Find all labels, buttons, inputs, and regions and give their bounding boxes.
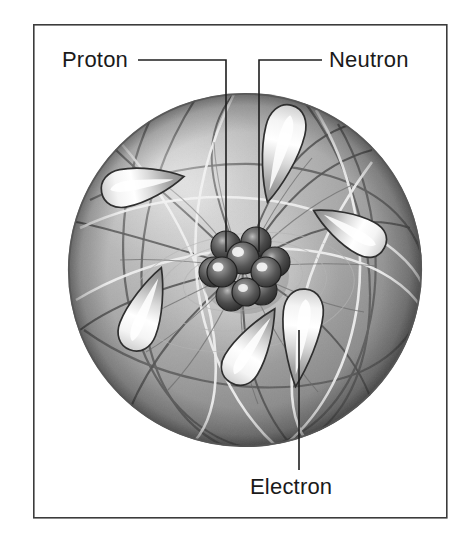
nucleon-front-bottom: [232, 278, 260, 306]
label-proton: Proton: [62, 47, 128, 72]
label-electron: Electron: [250, 474, 332, 499]
label-neutron: Neutron: [329, 47, 409, 72]
nucleon-front-left: [207, 257, 237, 287]
atom-diagram-figure: Proton Neutron Electron: [0, 0, 473, 539]
atom-diagram-canvas: Proton Neutron Electron: [0, 0, 473, 539]
